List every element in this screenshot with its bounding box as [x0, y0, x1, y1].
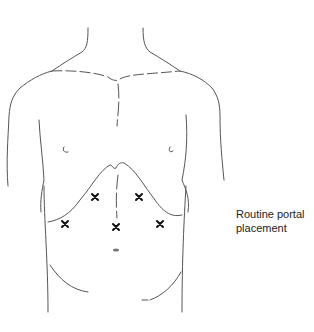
caption-line-2: placement — [236, 221, 305, 235]
right-hip-line — [150, 272, 181, 300]
left-hip-line — [50, 265, 88, 292]
portal-marker-right-lower — [157, 221, 163, 227]
sternum-line — [117, 84, 119, 126]
clavicle-line — [52, 71, 180, 81]
costal-margin — [48, 163, 182, 222]
portal-marker-left-lower — [62, 221, 68, 227]
torso-diagram — [0, 0, 314, 332]
figure-caption: Routine portal placement — [236, 207, 305, 235]
portal-marker-left-upper — [92, 194, 98, 200]
linea-alba — [116, 175, 118, 218]
right-nipple — [169, 147, 173, 152]
left-shoulder-outline — [7, 71, 52, 186]
portal-marker-center — [113, 224, 119, 230]
left-inner-arm — [39, 120, 44, 212]
left-nipple — [63, 147, 68, 152]
portal-marker-right-upper — [136, 194, 142, 200]
caption-line-1: Routine portal — [236, 207, 305, 221]
neck-right-outline — [143, 28, 180, 71]
navel — [113, 249, 119, 252]
left-torso-side — [44, 186, 48, 312]
right-torso-side — [182, 186, 186, 312]
neck-left-outline — [52, 28, 88, 71]
